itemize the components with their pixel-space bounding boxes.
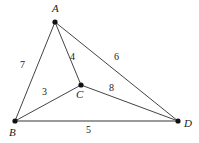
vertex-layer [12, 19, 180, 123]
edge-layer [15, 22, 178, 121]
graph-edge-ad [55, 22, 178, 121]
vertex-label-c: C [76, 89, 83, 100]
graph-vertex-c [78, 82, 83, 87]
graph-vertex-a [52, 19, 57, 24]
edge-weight-ab: 7 [20, 60, 25, 70]
graph-edge-ab [15, 22, 55, 121]
edge-weight-ac: 4 [70, 52, 75, 62]
vertex-label-b: B [9, 127, 16, 138]
graph-canvas [0, 0, 199, 143]
graph-vertex-d [175, 118, 180, 123]
graph-edge-cd [81, 85, 178, 121]
graph-vertex-b [12, 118, 17, 123]
vertex-label-d: D [184, 118, 192, 129]
edge-weight-bc: 3 [42, 87, 47, 97]
vertex-label-a: A [52, 3, 59, 14]
edge-weight-ad: 6 [114, 52, 119, 62]
graph-figure: ABCD 746385 [0, 0, 199, 143]
edge-weight-cd: 8 [109, 83, 114, 93]
edge-weight-bd: 5 [86, 125, 91, 135]
graph-edge-bc [15, 85, 81, 121]
graph-edge-ac [55, 22, 81, 85]
